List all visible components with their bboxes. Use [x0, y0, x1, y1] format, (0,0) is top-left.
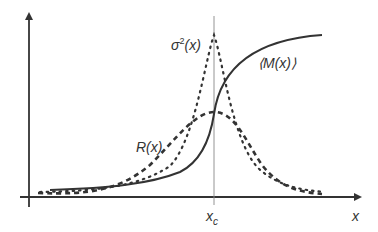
label-mean-M: ⟨M(x)⟩ [258, 55, 297, 71]
diagram-svg: σ2(x) ⟨M(x)⟩ R(x) xc x [0, 0, 378, 232]
label-sigma2: σ2(x) [171, 36, 201, 53]
x-axis-label: x [351, 208, 360, 224]
label-R: R(x) [136, 139, 162, 155]
diagram-canvas: σ2(x) ⟨M(x)⟩ R(x) xc x [0, 0, 378, 232]
label-critical-point: xc [205, 208, 218, 227]
